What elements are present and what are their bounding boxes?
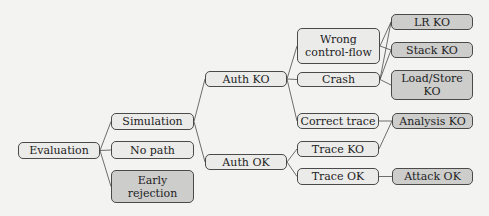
node-label: Evaluation [29, 144, 89, 157]
edge-simulation-auth_ko [194, 79, 205, 122]
node-label: Crash [322, 73, 355, 86]
node-label: Wrong [320, 33, 357, 46]
node-stack-ko: Stack KO [391, 42, 473, 58]
node-attack-ok: Attack OK [392, 168, 473, 185]
node-wrong-control-flow: Wrongcontrol-flow [297, 28, 380, 64]
node-label: Simulation [122, 115, 182, 128]
edge-simulation-auth_ok [194, 122, 205, 163]
node-label: Auth OK [222, 156, 269, 169]
node-analysis-ko: Analysis KO [392, 113, 473, 129]
node-no-path: No path [111, 141, 194, 159]
edge-auth_ok-trace_ok [287, 162, 297, 177]
node-label: Analysis KO [399, 115, 466, 128]
node-label: control-flow [305, 46, 372, 59]
node-label: Load/Store [401, 72, 463, 85]
edge-trace_ko-analysis_ko [379, 121, 392, 149]
node-label: No path [130, 144, 175, 157]
node-auth-ok: Auth OK [205, 154, 287, 170]
edge-wrong_cf-lr_ko [380, 22, 391, 46]
node-trace-ko: Trace KO [297, 141, 379, 157]
edge-crash-load_store_ko [380, 80, 391, 86]
edge-auth_ok-trace_ko [287, 149, 297, 162]
node-label: Trace KO [312, 143, 364, 156]
node-label: Stack KO [406, 44, 458, 57]
node-label: rejection [128, 187, 178, 200]
node-evaluation: Evaluation [18, 142, 100, 159]
node-auth-ko: Auth KO [205, 71, 287, 87]
edge-evaluation-early_rejection [100, 151, 111, 187]
edge-evaluation-simulation [100, 122, 111, 151]
node-label: Attack OK [404, 170, 461, 183]
edge-crash-lr_ko [380, 22, 391, 80]
node-label: Auth KO [223, 73, 270, 86]
node-early-rejection: Earlyrejection [111, 170, 194, 203]
edge-crash-stack_ko [380, 50, 391, 80]
node-label: KO [424, 85, 441, 98]
node-label: Correct trace [300, 115, 375, 128]
node-label: Trace OK [312, 170, 365, 183]
edge-auth_ko-correct_trace [287, 79, 297, 121]
node-crash: Crash [297, 72, 380, 87]
node-lr-ko: LR KO [391, 14, 473, 30]
node-trace-ok: Trace OK [297, 168, 379, 185]
edge-auth_ko-wrong_cf [287, 46, 297, 79]
edge-evaluation-no_path [100, 150, 111, 151]
node-load-store-ko: Load/StoreKO [391, 70, 473, 100]
edge-auth_ko-crash [287, 79, 297, 80]
node-label: Early [138, 174, 168, 187]
node-label: LR KO [414, 16, 450, 29]
node-correct-trace: Correct trace [297, 113, 379, 129]
node-simulation: Simulation [111, 113, 194, 130]
